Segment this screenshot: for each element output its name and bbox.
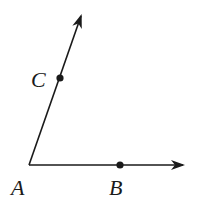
point-c: [56, 74, 63, 81]
label-a: A: [9, 175, 25, 200]
label-b: B: [109, 175, 122, 200]
angle-diagram: A B C: [0, 0, 199, 202]
point-b: [116, 161, 123, 168]
label-c: C: [31, 67, 46, 92]
